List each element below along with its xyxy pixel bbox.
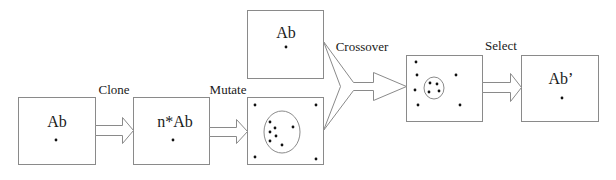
crossover-arrow-icon (324, 42, 407, 131)
clone-arrow-icon (96, 118, 134, 144)
antibody-2-dot (285, 46, 288, 49)
crossover-step-label: Crossover (336, 39, 389, 54)
crossover-result-box (407, 56, 483, 122)
selected-box (522, 56, 599, 122)
clone-step-label: Clone (98, 82, 129, 97)
select-arrow-icon (483, 74, 522, 102)
select-step-label: Select (485, 38, 517, 53)
antibody-2-label: Ab (276, 24, 296, 41)
clones-label: n*Ab (157, 113, 193, 130)
mutated-box (248, 98, 324, 165)
clone-dot (172, 139, 175, 142)
mutate-arrow-icon (210, 120, 248, 144)
antibody-2-box (248, 11, 324, 79)
clonal-selection-diagram: Ab n*Ab Ab Ab’ Clone Mutate Crossover Se… (0, 0, 616, 180)
selected-label: Ab’ (549, 70, 574, 87)
antibody-dot (55, 139, 58, 142)
selected-dot (561, 97, 564, 100)
antibody-label: Ab (47, 113, 67, 130)
mutate-step-label: Mutate (210, 82, 247, 97)
clones-box (134, 98, 210, 165)
antibody-box (19, 98, 96, 165)
